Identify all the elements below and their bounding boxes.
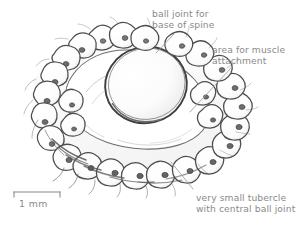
annotation-muscle-line2: attachment: [212, 55, 285, 66]
annotation-tubercle-line1: very small tubercle: [196, 192, 286, 203]
tubercle-center-pit: [143, 39, 148, 43]
annotation-small-tubercle: very small tubercle with central ball jo…: [196, 192, 295, 215]
tubercle-center-pit: [100, 39, 105, 44]
tubercle: [147, 161, 176, 188]
tubercle-center-pit: [179, 44, 184, 49]
annotation-ball-joint-line2: base of spine: [152, 19, 215, 30]
tubercle-center-pit: [42, 120, 48, 125]
figure-root: ball joint for base of spine area for mu…: [0, 0, 305, 226]
annotation-muscle-attachment: area for muscle attachment: [212, 44, 285, 67]
tubercle-center-pit: [210, 159, 216, 164]
tubercle: [122, 163, 150, 189]
tubercle-center-pit: [236, 124, 242, 129]
tubercle-center-pit: [137, 173, 143, 178]
tubercle-center-pit: [232, 86, 238, 91]
annotation-ball-joint-line1: ball joint for: [152, 8, 209, 19]
tubercle-center-pit: [201, 53, 206, 58]
annotation-muscle-line1: area for muscle: [212, 44, 285, 55]
tubercle: [165, 32, 193, 57]
tubercle-center-pit: [72, 127, 77, 131]
tubercle-center-pit: [162, 172, 168, 177]
tubercle-center-pit: [112, 170, 118, 175]
tubercle-center-pit: [239, 105, 245, 110]
tubercle-center-pit: [227, 143, 233, 148]
annotation-tubercle-line2: with central ball joint: [196, 203, 295, 214]
scale-bar: [14, 192, 60, 197]
tubercle-center-pit: [69, 103, 74, 107]
tubercle-center-pit: [210, 118, 215, 122]
tubercle-center-pit: [219, 68, 225, 73]
annotation-ball-joint: ball joint for base of spine: [152, 8, 215, 31]
tubercle-center-pit: [79, 48, 85, 53]
scale-bar-label: 1 mm: [19, 198, 48, 209]
tubercle-center-pit: [122, 36, 128, 41]
